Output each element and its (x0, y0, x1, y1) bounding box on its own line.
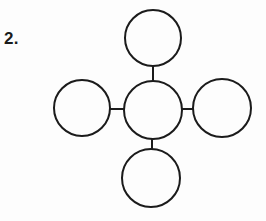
figure-canvas: 2. (0, 0, 266, 221)
left-circle[interactable] (54, 80, 110, 136)
circle-cross-diagram (0, 0, 266, 221)
right-circle[interactable] (193, 79, 251, 137)
center-circle[interactable] (124, 81, 182, 139)
bottom-circle[interactable] (122, 149, 180, 207)
top-circle[interactable] (125, 10, 181, 66)
